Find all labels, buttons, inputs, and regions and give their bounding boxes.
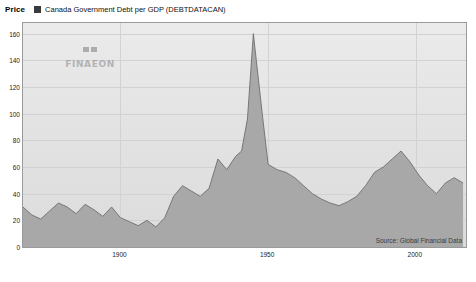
- y-axis-tick-label: 40: [0, 190, 20, 197]
- source-attribution: Source: Global Financial Data: [376, 237, 462, 244]
- chart-screenshot: Price Canada Government Debt per GDP (DE…: [0, 0, 476, 282]
- x-axis-tick-label: 1950: [260, 251, 274, 258]
- legend-entry-debt-gdp[interactable]: Canada Government Debt per GDP (DEBTDATA…: [34, 5, 225, 14]
- y-axis-tick-label: 80: [0, 137, 20, 144]
- y-axis-tick-label: 100: [0, 110, 20, 117]
- y-axis-tick-label: 60: [0, 164, 20, 171]
- y-axis-tick-label: 20: [0, 217, 20, 224]
- x-axis: 190019502000: [22, 249, 467, 265]
- legend-series-label: Canada Government Debt per GDP (DEBTDATA…: [45, 5, 225, 14]
- series-area-debt-per-gdp: [23, 23, 466, 247]
- x-axis-tick-label: 1900: [112, 251, 126, 258]
- series-fill: [23, 34, 463, 247]
- plot-area: FINAEON Source: Global Financial Data: [22, 22, 467, 248]
- y-axis: 020406080100120140160: [0, 22, 20, 248]
- y-axis-tick-label: 0: [0, 244, 20, 251]
- y-axis-tick-label: 160: [0, 30, 20, 37]
- chart-legend: Price Canada Government Debt per GDP (DE…: [0, 0, 476, 18]
- y-axis-tick-label: 140: [0, 57, 20, 64]
- legend-swatch-icon: [34, 6, 41, 13]
- price-axis-label: Price: [5, 5, 25, 14]
- x-axis-tick-label: 2000: [408, 251, 422, 258]
- y-axis-tick-label: 120: [0, 84, 20, 91]
